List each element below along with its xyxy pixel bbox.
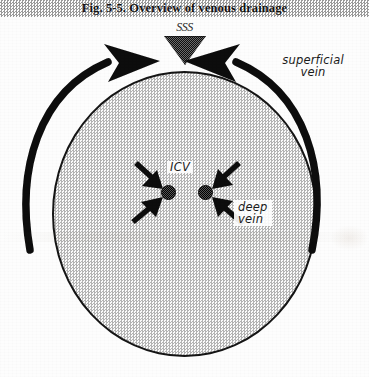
figure-title-bar: Fig. 5-5. Overview of venous drainage: [0, 0, 369, 17]
superior-sagittal-sinus-triangle-outline: [164, 36, 206, 65]
figure-title: Fig. 5-5. Overview of venous drainage: [82, 1, 287, 16]
figure-page: Fig. 5-5. Overview of venous drainage SS…: [0, 0, 369, 377]
deep-vein-label-line2: vein: [238, 213, 268, 225]
superficial-vein-label-line2: vein: [262, 66, 364, 78]
icv-label: ICV: [167, 161, 193, 173]
scan-artifact-blot: [330, 225, 369, 251]
deep-vein-label: deep vein: [234, 200, 272, 226]
page-footer-fragment: [0, 368, 369, 377]
superficial-vein-label: superficial vein: [262, 54, 364, 78]
sss-label: SSS: [0, 20, 369, 35]
internal-cerebral-vein-dot-left: [161, 185, 176, 200]
brain-circle: [52, 71, 317, 357]
internal-cerebral-vein-dot-right: [198, 185, 213, 200]
